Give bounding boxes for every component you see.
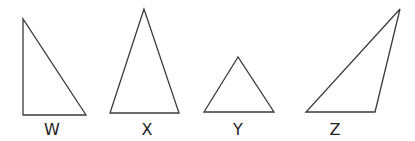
- triangle-y: [204, 57, 274, 112]
- triangle-x: [110, 9, 179, 113]
- label-y: Y: [223, 120, 253, 140]
- triangle-w: [23, 19, 86, 115]
- triangle-z: [306, 9, 400, 112]
- label-x: X: [132, 120, 162, 140]
- label-z: Z: [320, 120, 350, 140]
- label-w: W: [37, 120, 67, 140]
